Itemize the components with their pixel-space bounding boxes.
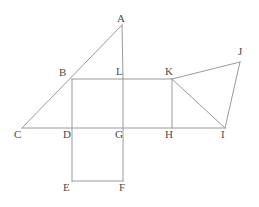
vertex-label-f: F — [119, 182, 125, 193]
segment-layer — [22, 25, 240, 181]
vertex-label-k: K — [165, 66, 173, 77]
segment-K-I — [172, 79, 225, 128]
vertex-label-c: C — [14, 129, 21, 140]
segment-J-I — [225, 62, 240, 128]
geometry-canvas — [0, 0, 259, 207]
geometry-figure: ABCDEFGHIJKL — [0, 0, 259, 207]
segment-K-J — [172, 62, 240, 79]
vertex-label-j: J — [238, 46, 242, 57]
vertex-label-i: I — [221, 129, 225, 140]
vertex-label-a: A — [117, 13, 125, 24]
vertex-label-d: D — [63, 129, 71, 140]
vertex-label-h: H — [165, 129, 173, 140]
vertex-label-g: G — [115, 129, 123, 140]
vertex-label-l: L — [116, 66, 123, 77]
vertex-label-b: B — [59, 67, 66, 78]
vertex-label-e: E — [63, 182, 70, 193]
